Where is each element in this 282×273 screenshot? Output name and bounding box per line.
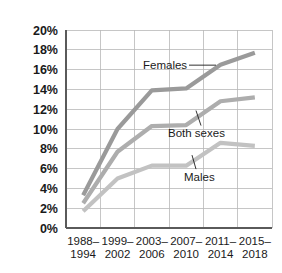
x-axis-tick-label: 2003–2006: [136, 235, 169, 260]
series-label-both-sexes: Both sexes: [168, 127, 225, 139]
x-axis-tick-label: 1999–2002: [102, 235, 135, 260]
y-axis-tick-label: 2%: [40, 202, 58, 216]
x-axis-tick-label: 2015–2018: [239, 235, 272, 260]
x-axis-tick-label: 2007–2010: [170, 235, 203, 260]
y-axis-tick-label: 4%: [40, 182, 58, 196]
y-axis-tick-label: 18%: [33, 43, 58, 57]
y-axis-tick-labels: 0%2%4%6%8%10%12%14%16%18%20%: [33, 24, 58, 236]
line-chart: 0%2%4%6%8%10%12%14%16%18%20%1988–1994199…: [0, 0, 282, 273]
y-axis-tick-label: 20%: [33, 24, 58, 38]
y-axis-tick-label: 16%: [33, 63, 58, 77]
x-axis-tick-labels: 1988–19941999–20022003–20062007–20102011…: [67, 235, 271, 260]
y-axis-tick-label: 0%: [40, 222, 58, 236]
series-label-females: Females: [143, 59, 187, 71]
x-axis-tick-label: 2011–2014: [205, 235, 237, 260]
y-axis-tick-label: 10%: [33, 123, 58, 137]
x-axis-tick-label: 1988–1994: [67, 235, 100, 260]
y-axis-tick-label: 8%: [40, 142, 58, 156]
series-label-males: Males: [184, 171, 215, 183]
y-axis-tick-label: 12%: [33, 103, 58, 117]
y-axis-tick-label: 14%: [33, 83, 58, 97]
y-axis-tick-label: 6%: [40, 162, 58, 176]
chart-canvas: 0%2%4%6%8%10%12%14%16%18%20%1988–1994199…: [0, 0, 282, 273]
